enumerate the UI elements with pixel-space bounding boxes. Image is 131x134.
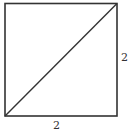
diagonal-line — [5, 4, 117, 117]
bottom-side-length-label: 2 — [53, 119, 60, 132]
square-diagram: 2 2 — [0, 0, 131, 134]
right-side-length-label: 2 — [121, 51, 128, 64]
